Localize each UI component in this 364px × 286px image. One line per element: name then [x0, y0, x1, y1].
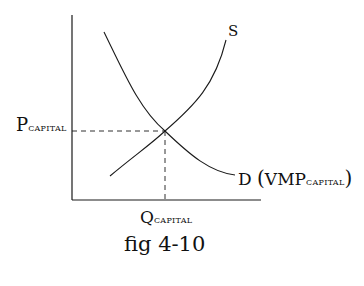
demand-paren-open: ( [257, 166, 265, 190]
price-subscript: CAPITAL [28, 124, 67, 133]
demand-subscript: CAPITAL [306, 178, 345, 187]
demand-vmp: VMP [265, 169, 306, 189]
supply-demand-diagram: S D (VMPCAPITAL) PCAPITAL QCAPITAL fig 4… [0, 0, 364, 286]
demand-paren-close: ) [345, 166, 353, 190]
demand-curve [104, 32, 235, 175]
supply-label: S [228, 22, 238, 40]
price-letter: P [16, 114, 28, 135]
supply-curve [110, 40, 226, 176]
price-label: PCAPITAL [16, 114, 67, 135]
quantity-subscript: CAPITAL [154, 216, 193, 225]
quantity-label: QCAPITAL [140, 207, 192, 227]
demand-label: D (VMPCAPITAL) [238, 166, 352, 190]
figure-caption: fig 4-10 [124, 232, 205, 256]
quantity-letter: Q [140, 207, 154, 227]
demand-letter: D [238, 169, 252, 189]
